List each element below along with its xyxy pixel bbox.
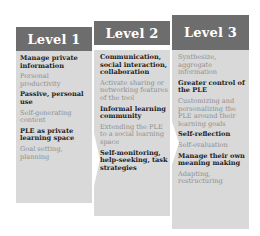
level-2-item: Extending the PLE to a social learning s…: [100, 124, 168, 147]
level-1-item: Manage private information: [20, 55, 90, 70]
level-3-item: Adapting, restructuring: [178, 171, 247, 186]
level-3-item: Self-reflection: [178, 131, 247, 139]
level-2-item: Activate sharing or networking features …: [100, 80, 168, 103]
level-2-item: Communication, social interaction, colla…: [100, 54, 168, 77]
level-3-item: Synthesize, aggregate information: [178, 54, 247, 77]
level-3-item: Customizing and personalizing the PLE ar…: [178, 98, 247, 128]
level-3-header: Level 3: [172, 15, 249, 50]
level-2-item: Informal learning community: [100, 106, 168, 121]
level-3-body: Synthesize, aggregate information Greate…: [172, 50, 249, 229]
level-2-item: Self-monitoring, help-seeking, task stra…: [100, 150, 168, 173]
level-1-body: Manage private information Personal prod…: [16, 51, 92, 203]
level-1-header: Level 1: [16, 27, 92, 51]
level-1-item: Passive, personal use: [20, 91, 90, 106]
level-1-item: Self-generating content: [20, 110, 90, 125]
level-3-item: Self-evaluation: [178, 142, 247, 150]
level-3-column: Level 3 Synthesize, aggregate informatio…: [172, 15, 249, 229]
level-1-item: Goal setting, planning: [20, 146, 90, 161]
level-2-header: Level 2: [94, 21, 170, 45]
level-3-item: Manage their own meaning making: [178, 153, 247, 168]
level-3-item: Greater control of the PLE: [178, 80, 247, 95]
level-1-item: Personal productivity: [20, 73, 90, 88]
level-1-item: PLE as private learning space: [20, 128, 90, 143]
level-2-body: Communication, social interaction, colla…: [94, 50, 170, 216]
level-1-column: Level 1 Manage private information Perso…: [16, 27, 92, 203]
level-2-column: Level 2 Communication, social interactio…: [94, 21, 170, 216]
